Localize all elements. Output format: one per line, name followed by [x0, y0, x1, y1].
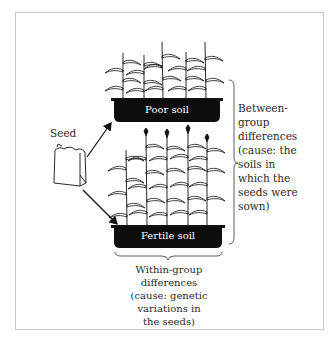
caption-line: seeds were — [238, 185, 318, 199]
caption-line: (cause: genetic variations in — [106, 289, 232, 315]
caption-line: soils in — [238, 157, 318, 171]
caption-line: Within-group differences — [106, 263, 232, 289]
poor-soil-plants — [105, 42, 224, 99]
arrow-to-poor-soil — [87, 123, 111, 157]
poor-soil-label: Poor soil — [112, 104, 222, 115]
within-group-caption: Within-group differences (cause: genetic… — [106, 263, 232, 328]
caption-line: group — [238, 115, 318, 129]
between-group-brace — [229, 80, 238, 244]
within-group-brace — [115, 252, 222, 260]
caption-line: Between- — [238, 101, 318, 115]
caption-line: differences — [238, 129, 318, 143]
caption-line: (cause: the — [238, 143, 318, 157]
arrow-to-fertile-soil — [83, 190, 117, 224]
seed-bag-icon — [54, 144, 86, 186]
seed-label: Seed — [50, 126, 76, 140]
fertile-soil-plants — [108, 125, 225, 225]
between-group-caption: Between- group differences (cause: the s… — [238, 101, 318, 213]
caption-line: sown) — [238, 199, 318, 213]
fertile-soil-label: Fertile soil — [112, 230, 224, 241]
caption-line: the seeds) — [106, 315, 232, 328]
caption-line: which the — [238, 171, 318, 185]
